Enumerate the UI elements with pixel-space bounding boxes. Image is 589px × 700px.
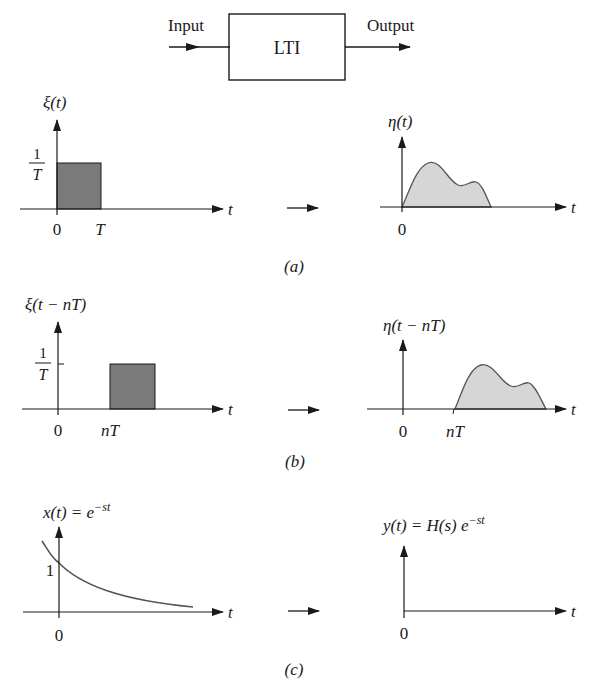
panel-b-output-plot: η(t − nT) 0 nT t: [367, 316, 577, 441]
input-label: Input: [168, 16, 204, 35]
panel-a-input-plot: ξ(t) 1 T 0 T t: [20, 93, 234, 239]
decaying-exponential-curve: [42, 541, 193, 607]
caption-c: (c): [285, 660, 304, 679]
y-axis-label: ξ(t − nT): [25, 295, 87, 314]
tick-0: 0: [400, 624, 409, 643]
t-axis-label: t: [571, 400, 577, 419]
tick-nT: nT: [101, 421, 121, 440]
y-axis-label: ξ(t): [43, 93, 67, 112]
tick-0: 0: [53, 220, 62, 239]
tick-T: T: [95, 220, 106, 239]
shifted-pulse: [110, 364, 155, 409]
lti-label: LTI: [274, 38, 300, 58]
t-axis-label: t: [571, 602, 577, 621]
panel-a-output-plot: η(t) 0 t: [380, 112, 577, 239]
panel-b-input-plot: ξ(t − nT) 1 T 0 nT t: [22, 295, 234, 440]
panel-c: x(t) = e−st 1 0 t y(t) = H(s) e−st 0 t (…: [23, 500, 577, 679]
tick-nT: nT: [446, 422, 466, 441]
t-axis-label: t: [228, 400, 234, 419]
tick-0: 0: [55, 626, 64, 645]
level-denominator: T: [39, 366, 49, 383]
y-axis-label: η(t): [388, 112, 413, 131]
lti-diagram: Input LTI Output ξ(t) 1 T 0 T t η(t): [0, 0, 589, 700]
t-axis-label: t: [228, 200, 234, 219]
panel-c-input-plot: x(t) = e−st 1 0 t: [23, 500, 234, 645]
level-denominator: T: [33, 166, 43, 183]
y-axis-label: η(t − nT): [383, 316, 446, 335]
level-numerator: 1: [33, 146, 41, 162]
t-axis-label: t: [228, 603, 234, 622]
level-numerator: 1: [39, 345, 47, 361]
output-label: Output: [367, 16, 415, 35]
nT-tick: [453, 409, 454, 414]
level-1: 1: [46, 561, 55, 580]
panel-c-output-plot: y(t) = H(s) e−st 0 t: [381, 513, 577, 643]
block-diagram: Input LTI Output: [168, 14, 415, 80]
unit-pulse: [57, 163, 101, 209]
tick-0: 0: [399, 422, 408, 441]
tick-0: 0: [398, 220, 407, 239]
caption-a: (a): [284, 257, 304, 276]
panel-a: ξ(t) 1 T 0 T t η(t) 0 t (a): [20, 93, 577, 276]
input-arrow-head-icon: [186, 43, 200, 51]
panel-b: ξ(t − nT) 1 T 0 nT t η(t − nT) 0 nT t (b…: [22, 295, 577, 471]
tick-0: 0: [54, 421, 63, 440]
caption-b: (b): [285, 452, 305, 471]
y-axis-label: y(t) = H(s) e−st: [381, 513, 485, 535]
y-axis-label: x(t) = e−st: [42, 500, 111, 522]
t-axis-label: t: [571, 198, 577, 217]
impulse-response-curve: [402, 162, 491, 207]
shifted-response-curve: [455, 365, 546, 409]
